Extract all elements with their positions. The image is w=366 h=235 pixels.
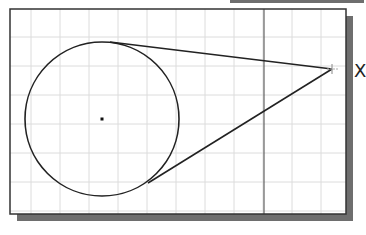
circle-center-point (101, 118, 104, 121)
x-axis-label: X (354, 60, 366, 81)
top-bar-shadow (230, 0, 364, 3)
